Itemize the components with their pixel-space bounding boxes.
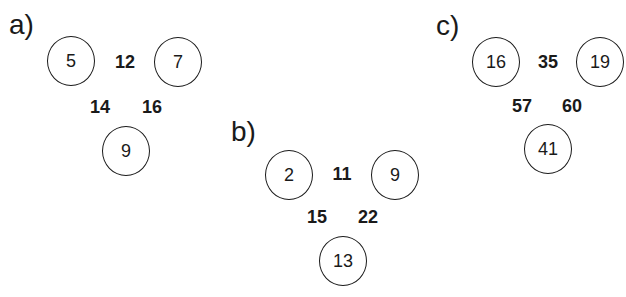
- puzzle-label: b): [231, 118, 256, 146]
- sum-left: 15: [307, 207, 327, 228]
- sum-right: 60: [562, 96, 582, 117]
- circle-bottom: 41: [524, 124, 572, 174]
- sum-right: 22: [358, 207, 378, 228]
- puzzle-label: a): [9, 11, 34, 39]
- circle-bottom: 13: [319, 236, 367, 286]
- sum-left: 14: [90, 97, 110, 118]
- sum-top: 12: [115, 52, 135, 73]
- puzzle-label: c): [436, 12, 459, 40]
- circle-top-left: 2: [265, 150, 313, 200]
- circle-top-right: 9: [371, 150, 419, 200]
- circle-top-right: 19: [576, 37, 624, 87]
- circle-top-right: 7: [154, 37, 202, 87]
- sum-right: 16: [142, 97, 162, 118]
- circle-bottom: 9: [102, 126, 150, 176]
- circle-top-left: 5: [47, 36, 95, 86]
- sum-left: 57: [512, 96, 532, 117]
- sum-top: 11: [332, 164, 351, 185]
- sum-top: 35: [538, 52, 558, 73]
- circle-top-left: 16: [472, 37, 520, 87]
